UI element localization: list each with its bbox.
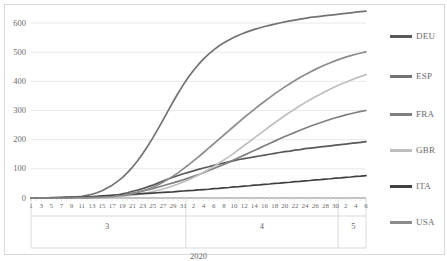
y-axis-label: 600 [0, 19, 26, 28]
x-axis-tick: 27 [159, 203, 166, 210]
x-axis-tick: 4 [354, 203, 358, 210]
legend-item-gbr[interactable]: GBR [390, 146, 435, 155]
x-axis-tick: 9 [70, 203, 74, 210]
legend-color-swatch-icon [390, 75, 412, 77]
legend-label: ESP [416, 72, 432, 81]
x-axis-tick: 23 [139, 203, 146, 210]
legend-color-swatch-icon [390, 221, 412, 223]
x-axis-tick: 2 [344, 203, 348, 210]
chart-container: 6005004003002001000 13579111315171921232… [0, 0, 447, 261]
x-axis-tick: 26 [312, 203, 319, 210]
x-axis-tick: 13 [88, 203, 95, 210]
x-axis-month-label: 3 [105, 222, 109, 231]
x-axis-year: 2020 [190, 252, 207, 261]
legend-label: GBR [416, 146, 435, 155]
x-axis-tick: 3 [39, 203, 43, 210]
legend-color-swatch-icon [390, 149, 412, 151]
legend-item-ita[interactable]: ITA [390, 182, 431, 191]
x-axis-tick: 25 [149, 203, 156, 210]
x-axis-tick: 15 [99, 203, 106, 210]
x-axis-tick: 21 [129, 203, 136, 210]
x-axis-tick: 1 [29, 203, 33, 210]
x-axis-tick: 30 [332, 203, 339, 210]
legend-color-swatch-icon [390, 35, 412, 37]
legend-item-deu[interactable]: DEU [390, 32, 435, 41]
x-axis-tick: 19 [119, 203, 126, 210]
legend-color-swatch-icon [390, 113, 412, 115]
x-axis-tick: 29 [170, 203, 177, 210]
chart-legend: DEUESPFRAGBRITAUSA [367, 0, 447, 261]
y-axis-label: 0 [0, 194, 26, 203]
y-axis-label: 500 [0, 48, 26, 57]
x-axis-tick: 18 [271, 203, 278, 210]
x-axis-tick: 6 [212, 203, 216, 210]
legend-label: FRA [416, 110, 434, 119]
x-axis-tick: 28 [322, 203, 329, 210]
legend-item-esp[interactable]: ESP [390, 72, 432, 81]
x-axis-tick: 16 [261, 203, 268, 210]
x-axis-tick: 7 [60, 203, 64, 210]
legend-label: DEU [416, 32, 435, 41]
series-line-ita [31, 176, 366, 198]
x-axis-tick: 24 [302, 203, 309, 210]
x-axis-tick: 5 [50, 203, 54, 210]
x-axis-tick: 14 [251, 203, 258, 210]
x-axis-month-label: 5 [351, 222, 355, 231]
x-axis-tick: 17 [109, 203, 116, 210]
y-axis-label: 400 [0, 77, 26, 86]
y-axis-label: 300 [0, 106, 26, 115]
y-axis-label: 100 [0, 164, 26, 173]
x-axis-tick: 8 [222, 203, 226, 210]
x-axis-tick: 10 [231, 203, 238, 210]
x-axis-tick: 22 [291, 203, 298, 210]
legend-item-usa[interactable]: USA [390, 218, 435, 227]
x-axis-tick: 11 [78, 203, 85, 210]
x-axis-tick: 2 [192, 203, 196, 210]
y-axis-label: 200 [0, 135, 26, 144]
series-line-fra [31, 111, 366, 199]
legend-label: ITA [416, 182, 431, 191]
x-axis-tick: 31 [180, 203, 187, 210]
x-axis-tick: 20 [281, 203, 288, 210]
x-axis-tick: 12 [241, 203, 248, 210]
x-axis-month-label: 4 [260, 222, 264, 231]
legend-label: USA [416, 218, 435, 227]
x-axis-tick: 4 [202, 203, 206, 210]
plot-area: 6005004003002001000 13579111315171921232… [0, 0, 367, 261]
legend-color-swatch-icon [390, 185, 412, 187]
legend-item-fra[interactable]: FRA [390, 110, 434, 119]
